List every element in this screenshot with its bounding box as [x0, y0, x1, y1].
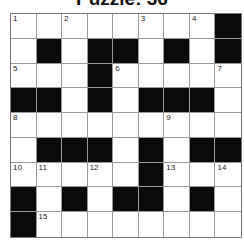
- black-cell: [11, 88, 37, 113]
- white-cell[interactable]: 7: [215, 64, 241, 89]
- white-cell[interactable]: 8: [11, 113, 37, 138]
- clue-number: 1: [13, 15, 17, 23]
- white-cell[interactable]: [62, 163, 88, 188]
- clue-number: 10: [13, 164, 22, 172]
- black-cell: [11, 212, 37, 237]
- white-cell[interactable]: [37, 113, 63, 138]
- white-cell[interactable]: [164, 138, 190, 163]
- white-cell[interactable]: 15: [37, 212, 63, 237]
- black-cell: [139, 163, 165, 188]
- clue-number: 8: [13, 114, 17, 122]
- white-cell[interactable]: [190, 39, 216, 64]
- black-cell: [37, 138, 63, 163]
- black-cell: [164, 88, 190, 113]
- white-cell[interactable]: [62, 212, 88, 237]
- white-cell[interactable]: 12: [88, 163, 114, 188]
- white-cell[interactable]: [113, 212, 139, 237]
- black-cell: [139, 138, 165, 163]
- white-cell[interactable]: 4: [190, 14, 216, 39]
- black-cell: [62, 187, 88, 212]
- white-cell[interactable]: [139, 212, 165, 237]
- white-cell[interactable]: [215, 187, 241, 212]
- white-cell[interactable]: 13: [164, 163, 190, 188]
- crossword-grid: 123456789101112131415: [10, 13, 242, 238]
- black-cell: [88, 88, 114, 113]
- white-cell[interactable]: [113, 14, 139, 39]
- white-cell[interactable]: [88, 212, 114, 237]
- white-cell[interactable]: [88, 187, 114, 212]
- clue-number: 6: [115, 65, 119, 73]
- white-cell[interactable]: 5: [11, 64, 37, 89]
- white-cell[interactable]: [62, 88, 88, 113]
- clue-number: 14: [217, 164, 226, 172]
- white-cell[interactable]: [62, 113, 88, 138]
- white-cell[interactable]: [113, 88, 139, 113]
- white-cell[interactable]: [190, 113, 216, 138]
- white-cell[interactable]: [37, 187, 63, 212]
- black-cell: [88, 138, 114, 163]
- clue-number: 11: [39, 164, 47, 172]
- black-cell: [88, 39, 114, 64]
- black-cell: [190, 138, 216, 163]
- puzzle-title: Puzzle: 36: [0, 0, 244, 10]
- clue-number: 5: [13, 65, 17, 73]
- white-cell[interactable]: [113, 163, 139, 188]
- white-cell[interactable]: [11, 138, 37, 163]
- white-cell[interactable]: [88, 113, 114, 138]
- white-cell[interactable]: [88, 14, 114, 39]
- black-cell: [88, 64, 114, 89]
- clue-number: 15: [39, 213, 48, 221]
- clue-number: 12: [90, 164, 99, 172]
- black-cell: [215, 138, 241, 163]
- white-cell[interactable]: [164, 64, 190, 89]
- clue-number: 3: [141, 15, 145, 23]
- white-cell[interactable]: [37, 64, 63, 89]
- black-cell: [11, 187, 37, 212]
- clue-number: 13: [166, 164, 175, 172]
- clue-number: 7: [217, 65, 221, 73]
- clue-number: 2: [64, 15, 68, 23]
- white-cell[interactable]: [190, 212, 216, 237]
- white-cell[interactable]: [62, 64, 88, 89]
- white-cell[interactable]: [11, 39, 37, 64]
- black-cell: [113, 39, 139, 64]
- black-cell: [164, 39, 190, 64]
- white-cell[interactable]: [215, 88, 241, 113]
- white-cell[interactable]: 14: [215, 163, 241, 188]
- white-cell[interactable]: 9: [164, 113, 190, 138]
- clue-number: 9: [166, 114, 170, 122]
- white-cell[interactable]: [190, 163, 216, 188]
- white-cell[interactable]: 6: [113, 64, 139, 89]
- white-cell[interactable]: [37, 14, 63, 39]
- black-cell: [62, 138, 88, 163]
- white-cell[interactable]: [62, 39, 88, 64]
- black-cell: [139, 187, 165, 212]
- white-cell[interactable]: 2: [62, 14, 88, 39]
- white-cell[interactable]: [139, 64, 165, 89]
- black-cell: [113, 187, 139, 212]
- white-cell[interactable]: [164, 212, 190, 237]
- white-cell[interactable]: [164, 14, 190, 39]
- black-cell: [190, 88, 216, 113]
- black-cell: [215, 14, 241, 39]
- white-cell[interactable]: [139, 113, 165, 138]
- clue-number: 4: [192, 15, 196, 23]
- black-cell: [139, 88, 165, 113]
- white-cell[interactable]: [113, 113, 139, 138]
- white-cell[interactable]: 11: [37, 163, 63, 188]
- white-cell[interactable]: [113, 138, 139, 163]
- black-cell: [215, 39, 241, 64]
- white-cell[interactable]: 10: [11, 163, 37, 188]
- white-cell[interactable]: [190, 64, 216, 89]
- black-cell: [37, 39, 63, 64]
- white-cell[interactable]: 1: [11, 14, 37, 39]
- white-cell[interactable]: [164, 187, 190, 212]
- white-cell[interactable]: [215, 113, 241, 138]
- black-cell: [37, 88, 63, 113]
- white-cell[interactable]: [139, 39, 165, 64]
- white-cell[interactable]: 3: [139, 14, 165, 39]
- white-cell[interactable]: [215, 212, 241, 237]
- black-cell: [190, 187, 216, 212]
